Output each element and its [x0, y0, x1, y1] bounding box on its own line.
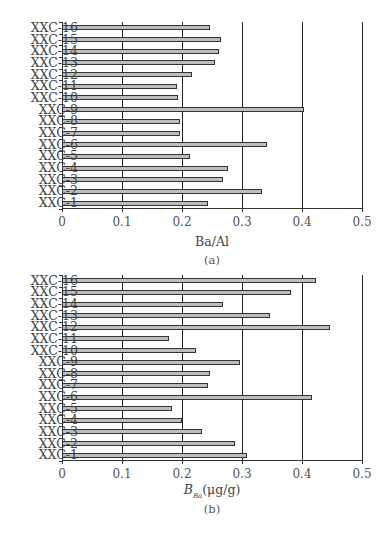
gridline — [302, 275, 303, 461]
x-tick-label: 0 — [58, 467, 66, 481]
bar-xxc-6 — [62, 395, 312, 400]
bar-xxc-5 — [62, 154, 190, 159]
x-tick — [362, 461, 363, 464]
y-tick-label: XXC-14 — [8, 298, 78, 310]
bar-xxc-12 — [62, 72, 192, 77]
y-tick-label: XXC-16 — [8, 22, 78, 34]
gridline — [302, 22, 303, 209]
bar-xxc-3 — [62, 177, 223, 182]
x-tick-label: 0.2 — [172, 215, 191, 229]
bar-xxc-10 — [62, 95, 178, 100]
x-tick — [242, 461, 243, 464]
y-tick-label: XXC-14 — [8, 45, 78, 57]
y-tick-label: XXC-10 — [8, 92, 78, 104]
bar-xxc-4 — [62, 166, 228, 171]
y-tick-label: XXC-1 — [8, 449, 78, 461]
y-tick-label: XXC-15 — [8, 34, 78, 46]
y-tick-label: XXC-13 — [8, 310, 78, 322]
x-tick — [122, 461, 123, 464]
gridline — [362, 275, 363, 461]
bar-xxc-2 — [62, 189, 262, 194]
y-tick-label: XXC-4 — [8, 414, 78, 426]
x-tick — [182, 461, 183, 464]
y-tick-label: XXC-5 — [8, 150, 78, 162]
y-tick-label: XXC-11 — [8, 333, 78, 345]
y-tick-label: XXC-3 — [8, 174, 78, 186]
y-tick-label: XXC-16 — [8, 275, 78, 287]
gridline — [362, 22, 363, 209]
bar-xxc-7 — [62, 131, 180, 136]
x-tick-label: 0.1 — [112, 467, 131, 481]
x-axis-title-main: BBa — [184, 482, 203, 497]
gridline — [242, 22, 243, 209]
bar-xxc-7 — [62, 383, 208, 388]
y-tick-label: XXC-7 — [8, 379, 78, 391]
x-tick — [362, 209, 363, 212]
bar-xxc-9 — [62, 360, 240, 365]
x-tick-label: 0.4 — [292, 467, 311, 481]
bar-xxc-13 — [62, 313, 270, 318]
bar-xxc-14 — [62, 49, 219, 54]
bar-xxc-15 — [62, 290, 291, 295]
x-axis — [62, 208, 362, 209]
chart-ba-al: Ba/Al (a) 00.10.20.30.40.5XXC-1XXC-2XXC-… — [0, 0, 383, 270]
bar-xxc-8 — [62, 371, 210, 376]
bar-xxc-10 — [62, 348, 196, 353]
bar-xxc-16 — [62, 278, 316, 283]
bar-xxc-13 — [62, 60, 215, 65]
bar-xxc-4 — [62, 418, 182, 423]
bar-xxc-2 — [62, 441, 235, 446]
y-tick-label: XXC-5 — [8, 403, 78, 415]
y-tick-label: XXC-12 — [8, 321, 78, 333]
bar-xxc-8 — [62, 119, 180, 124]
bar-xxc-14 — [62, 302, 223, 307]
y-tick-label: XXC-3 — [8, 426, 78, 438]
bar-xxc-15 — [62, 37, 221, 42]
y-tick-label: XXC-2 — [8, 438, 78, 450]
bar-xxc-1 — [62, 453, 247, 458]
x-axis-title: Ba/Al — [195, 234, 229, 249]
y-tick-label: XXC-8 — [8, 368, 78, 380]
x-tick-label: 0.3 — [232, 215, 251, 229]
y-tick-label: XXC-9 — [8, 356, 78, 368]
bar-xxc-12 — [62, 325, 330, 330]
bar-xxc-11 — [62, 336, 169, 341]
y-tick-label: XXC-4 — [8, 162, 78, 174]
x-axis-title-unit: (μg/g) — [202, 482, 240, 497]
x-tick-label: 0.5 — [352, 467, 371, 481]
y-tick-label: XXC-2 — [8, 185, 78, 197]
y-tick-label: XXC-8 — [8, 115, 78, 127]
y-tick-label: XXC-1 — [8, 197, 78, 209]
x-tick-label: 0.5 — [352, 215, 371, 229]
bar-xxc-5 — [62, 406, 172, 411]
y-tick-label: XXC-9 — [8, 104, 78, 116]
x-tick-label: 0.4 — [292, 215, 311, 229]
x-tick-label: 0 — [58, 215, 66, 229]
y-tick-label: XXC-6 — [8, 391, 78, 403]
bar-xxc-1 — [62, 201, 208, 206]
x-tick-label: 0.3 — [232, 467, 251, 481]
x-axis — [62, 460, 362, 461]
bar-xxc-16 — [62, 25, 210, 30]
plot-area — [62, 22, 362, 209]
bar-xxc-9 — [62, 107, 304, 112]
plot-area — [62, 275, 362, 461]
y-tick-label: XXC-6 — [8, 139, 78, 151]
x-tick — [122, 209, 123, 212]
chart-caption: (b) — [204, 502, 220, 516]
x-tick — [182, 209, 183, 212]
bar-xxc-3 — [62, 429, 202, 434]
y-tick-label: XXC-10 — [8, 345, 78, 357]
gridline — [242, 275, 243, 461]
y-tick-label: XXC-7 — [8, 127, 78, 139]
y-tick-label: XXC-13 — [8, 57, 78, 69]
x-tick-label: 0.2 — [172, 467, 191, 481]
chart-b-ba: BBa(μg/g) (b) 00.10.20.30.40.5XXC-1XXC-2… — [0, 270, 383, 533]
chart-caption: (a) — [204, 253, 220, 267]
x-tick — [242, 209, 243, 212]
bar-xxc-11 — [62, 84, 177, 89]
y-tick-label: XXC-11 — [8, 80, 78, 92]
y-tick-label: XXC-12 — [8, 69, 78, 81]
x-tick — [302, 461, 303, 464]
x-tick-label: 0.1 — [112, 215, 131, 229]
